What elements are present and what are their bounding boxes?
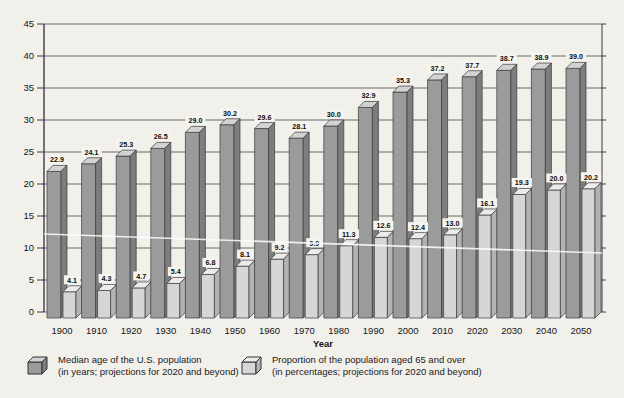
svg-text:20: 20 [23, 178, 34, 189]
svg-text:1940: 1940 [190, 325, 211, 336]
svg-text:24.1: 24.1 [85, 148, 99, 157]
svg-text:11.3: 11.3 [342, 230, 356, 239]
svg-text:29.6: 29.6 [258, 113, 272, 122]
svg-text:29.0: 29.0 [188, 116, 202, 125]
svg-text:5.4: 5.4 [171, 267, 181, 276]
svg-text:4.1: 4.1 [67, 276, 77, 285]
svg-text:38.7: 38.7 [500, 54, 514, 63]
legend-label-aged-65: Proportion of the population aged 65 and… [272, 354, 482, 366]
svg-text:2050: 2050 [570, 325, 591, 336]
svg-text:12.6: 12.6 [376, 221, 390, 230]
scanned-chart-page: 0510152025303540451900191019201930194019… [0, 0, 624, 398]
dark-cube-icon [26, 355, 49, 376]
svg-text:37.7: 37.7 [465, 61, 479, 70]
svg-text:13.0: 13.0 [446, 219, 460, 228]
legend-item-median-age: Median age of the U.S. population (in ye… [26, 354, 239, 377]
svg-text:0: 0 [29, 306, 34, 317]
svg-text:8.1: 8.1 [240, 250, 250, 259]
legend-note-median-age: (in years; projections for 2020 and beyo… [58, 366, 239, 378]
population-age-bar-chart: 0510152025303540451900191019201930194019… [0, 0, 624, 352]
legend-note-aged-65: (in percentages; projections for 2020 an… [272, 366, 482, 378]
svg-text:22.9: 22.9 [50, 155, 64, 164]
svg-text:30.2: 30.2 [223, 109, 237, 118]
svg-text:12.4: 12.4 [411, 223, 425, 232]
svg-text:2040: 2040 [536, 325, 557, 336]
svg-text:28.1: 28.1 [292, 122, 306, 131]
svg-text:32.9: 32.9 [361, 91, 375, 100]
legend-item-aged-65: Proportion of the population aged 65 and… [240, 354, 482, 377]
svg-text:4.3: 4.3 [102, 274, 112, 283]
svg-text:38.9: 38.9 [534, 53, 548, 62]
svg-text:1990: 1990 [363, 325, 384, 336]
svg-text:35.3: 35.3 [396, 76, 410, 85]
svg-text:45: 45 [23, 18, 34, 29]
svg-text:1920: 1920 [121, 325, 142, 336]
svg-text:1970: 1970 [294, 325, 315, 336]
svg-text:6.8: 6.8 [205, 258, 215, 267]
svg-text:1930: 1930 [155, 325, 176, 336]
svg-text:5: 5 [29, 274, 34, 285]
svg-text:25.3: 25.3 [119, 140, 133, 149]
svg-text:1980: 1980 [328, 325, 349, 336]
svg-text:30: 30 [23, 114, 34, 125]
svg-text:15: 15 [23, 210, 34, 221]
svg-text:Year: Year [313, 338, 333, 349]
svg-text:39.0: 39.0 [569, 52, 583, 61]
svg-text:37.2: 37.2 [431, 64, 445, 73]
svg-text:2010: 2010 [432, 325, 453, 336]
light-cube-icon [240, 355, 263, 376]
svg-text:2000: 2000 [397, 325, 418, 336]
cube-front [242, 362, 256, 374]
svg-text:10: 10 [23, 242, 34, 253]
svg-text:1950: 1950 [224, 325, 245, 336]
svg-text:1900: 1900 [51, 325, 72, 336]
svg-text:9.2: 9.2 [275, 243, 285, 252]
svg-text:20.0: 20.0 [549, 174, 563, 183]
cube-front [28, 362, 42, 374]
svg-text:26.5: 26.5 [154, 132, 168, 141]
chart-legend: Median age of the U.S. population (in ye… [0, 350, 624, 398]
svg-text:16.1: 16.1 [480, 199, 494, 208]
svg-text:30.0: 30.0 [327, 110, 341, 119]
svg-text:4.7: 4.7 [136, 272, 146, 281]
svg-text:35: 35 [23, 82, 34, 93]
svg-text:1960: 1960 [259, 325, 280, 336]
svg-text:2030: 2030 [501, 325, 522, 336]
svg-text:25: 25 [23, 146, 34, 157]
svg-text:40: 40 [23, 50, 34, 61]
svg-text:1910: 1910 [86, 325, 107, 336]
svg-text:19.3: 19.3 [515, 178, 529, 187]
svg-text:20.2: 20.2 [584, 173, 598, 182]
legend-label-median-age: Median age of the U.S. population [58, 354, 239, 366]
svg-text:2020: 2020 [467, 325, 488, 336]
